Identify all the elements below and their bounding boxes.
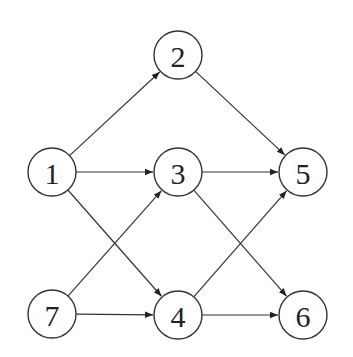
edge-line bbox=[70, 72, 160, 156]
node-5: 5 bbox=[279, 148, 327, 196]
edge-line bbox=[196, 71, 285, 155]
node-label: 4 bbox=[171, 300, 186, 333]
node-7: 7 bbox=[28, 290, 76, 338]
node-label: 1 bbox=[45, 157, 60, 190]
directed-graph: 1234567 bbox=[0, 0, 353, 357]
edge-7-to-4 bbox=[76, 314, 153, 315]
node-1: 1 bbox=[28, 148, 76, 196]
node-3: 3 bbox=[154, 148, 202, 196]
node-label: 5 bbox=[296, 157, 311, 190]
node-label: 2 bbox=[171, 40, 186, 73]
node-label: 7 bbox=[45, 299, 60, 332]
nodes-layer: 1234567 bbox=[28, 31, 327, 339]
node-label: 3 bbox=[171, 157, 186, 190]
edge-1-to-2 bbox=[70, 72, 160, 156]
edge-2-to-5 bbox=[196, 71, 285, 155]
edge-line bbox=[76, 314, 153, 315]
node-label: 6 bbox=[296, 300, 311, 333]
node-6: 6 bbox=[279, 291, 327, 339]
node-2: 2 bbox=[154, 31, 202, 79]
node-4: 4 bbox=[154, 291, 202, 339]
